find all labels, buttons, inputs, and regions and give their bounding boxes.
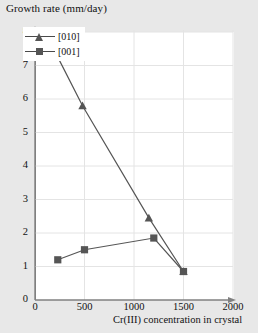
x-tick-label: 500 bbox=[65, 301, 105, 312]
legend-marker-square-icon bbox=[25, 46, 55, 58]
data-point-square[interactable] bbox=[150, 234, 157, 241]
y-tick-label: 2 bbox=[12, 226, 28, 237]
growth-rate-chart-figure: Growth rate (mm/day) 876543210 050010001… bbox=[0, 0, 258, 333]
series-001 bbox=[54, 234, 187, 275]
y-tick-label: 5 bbox=[12, 126, 28, 137]
y-tick-label: 6 bbox=[12, 92, 28, 103]
x-tick-label: 0 bbox=[15, 301, 55, 312]
data-point-triangle[interactable] bbox=[145, 214, 153, 222]
data-point-square[interactable] bbox=[180, 268, 187, 275]
series-line bbox=[58, 57, 184, 271]
chart-legend: [010] [001] bbox=[23, 27, 85, 61]
x-tick-label: 2000 bbox=[213, 301, 253, 312]
y-tick-label: 1 bbox=[12, 260, 28, 271]
y-tick-label: 3 bbox=[12, 193, 28, 204]
legend-marker-triangle-icon bbox=[25, 31, 55, 43]
legend-label-001: [001] bbox=[58, 46, 80, 57]
legend-item-001[interactable]: [001] bbox=[25, 44, 80, 59]
legend-label-010: [010] bbox=[58, 31, 80, 42]
data-point-square[interactable] bbox=[81, 246, 88, 253]
x-axis-title: Cr(III) concentration in crystal bbox=[113, 314, 242, 325]
data-point-triangle[interactable] bbox=[78, 102, 86, 110]
y-tick-label: 4 bbox=[12, 159, 28, 170]
data-point-square[interactable] bbox=[54, 256, 61, 263]
data-series-group bbox=[54, 53, 188, 275]
x-tick-label: 1000 bbox=[114, 301, 154, 312]
x-tick-label: 1500 bbox=[164, 301, 204, 312]
series-010 bbox=[54, 53, 188, 275]
legend-item-010[interactable]: [010] bbox=[25, 29, 80, 44]
